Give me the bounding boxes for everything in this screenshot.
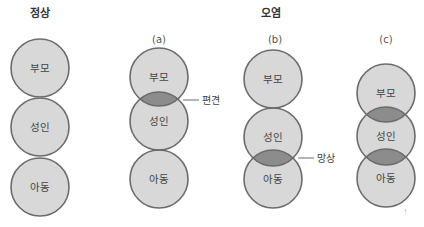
c-adult-label: 성인	[376, 130, 396, 142]
annotation-bias: 편견	[202, 95, 220, 106]
normal-parent-label: 부모	[30, 62, 50, 74]
heading-pollution: 오염	[261, 7, 281, 20]
panel-label-c: (c)	[379, 34, 392, 45]
c-child-label: 아동	[376, 172, 396, 184]
heading-normal: 정상	[30, 6, 50, 20]
ego-state-contamination-diagram: 부모성인아동부모성인아동부모성인아동부모성인아동 정상 오염 (a) (b) (…	[0, 0, 424, 227]
a-parent-label: 부모	[149, 71, 169, 83]
a-child-label: 아동	[149, 173, 169, 185]
panel-label-a: (a)	[152, 34, 166, 45]
a-adult-label: 성인	[149, 115, 169, 127]
panel-label-b: (b)	[268, 34, 282, 45]
normal-adult-label: 성인	[30, 121, 50, 133]
annotation-delusion: 망상	[317, 153, 335, 164]
b-adult-label: 성인	[263, 131, 283, 143]
b-child-label: 아동	[263, 173, 283, 185]
c-parent-label: 부모	[376, 87, 396, 99]
normal-child-label: 아동	[30, 181, 50, 193]
page-mark: !	[404, 208, 407, 216]
b-parent-label: 부모	[263, 73, 283, 85]
